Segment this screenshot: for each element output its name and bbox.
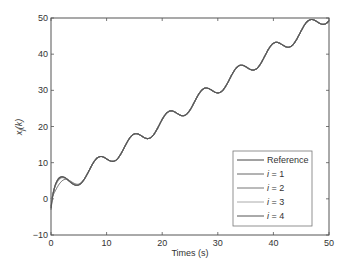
y-tick-label: 30	[38, 85, 48, 95]
y-tick-label: 10	[38, 158, 48, 168]
legend-label: i = 2	[267, 183, 284, 193]
legend-label: i = 1	[267, 169, 284, 179]
x-tick-label: 30	[213, 238, 223, 248]
y-tick-label: 20	[38, 122, 48, 132]
legend: Referencei = 1i = 2i = 3i = 4	[233, 151, 312, 226]
x-tick-label: 40	[268, 238, 278, 248]
line-chart: 01020304050 −1001020304050 Times (s) xj(…	[0, 0, 349, 272]
legend-label: i = 4	[267, 211, 284, 221]
y-tick-label: 40	[38, 49, 48, 59]
x-tick-label: 0	[48, 238, 53, 248]
x-tick-label: 10	[102, 238, 112, 248]
legend-label: Reference	[267, 155, 309, 165]
x-axis-label: Times (s)	[171, 248, 208, 258]
svg-text:xj(k): xj(k)	[14, 119, 26, 137]
y-tick-label: 50	[38, 13, 48, 23]
y-tick-label: −10	[33, 230, 48, 240]
y-tick-label: 0	[43, 194, 48, 204]
x-tick-label: 50	[324, 238, 334, 248]
x-tick-label: 20	[157, 238, 167, 248]
legend-label: i = 3	[267, 197, 284, 207]
y-axis-label: xj(k)	[14, 119, 26, 137]
